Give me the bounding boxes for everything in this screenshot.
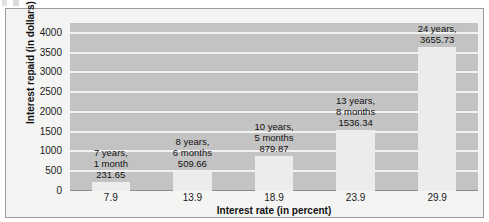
bar[interactable] — [255, 156, 293, 191]
bar-annotation-line: 5 months — [254, 132, 293, 143]
y-axis-tick-label: 500 — [45, 166, 62, 176]
bar-value-annotation: 10 years,5 months879.87 — [254, 121, 293, 154]
gridline — [70, 111, 478, 113]
y-axis-tick-label: 3500 — [40, 48, 62, 58]
bar-value-annotation: 13 years,8 months1536.34 — [336, 95, 375, 128]
x-axis-tick-label: 23.9 — [346, 193, 365, 203]
bar-value-annotation: 7 years,1 month231.65 — [94, 147, 128, 180]
bar-annotation-line: 13 years, — [336, 95, 375, 106]
x-axis-tick-label: 18.9 — [264, 193, 283, 203]
bar-value-annotation: 8 years,6 months509.66 — [173, 136, 212, 169]
gridline — [70, 91, 478, 93]
y-axis-tick-label: 4000 — [40, 28, 62, 38]
y-axis-tick-label: 0 — [56, 186, 62, 196]
bar-annotation-line: 3655.73 — [418, 34, 457, 45]
bar-annotation-line: 24 years, — [418, 23, 457, 34]
bar-annotation-line: 879.87 — [254, 143, 293, 154]
x-axis-title: Interest rate (in percent) — [70, 205, 478, 216]
y-axis-tick-label: 2500 — [40, 87, 62, 97]
y-axis-tick-label: 1000 — [40, 146, 62, 156]
bar-annotation-line: 1536.34 — [336, 117, 375, 128]
y-axis-tick-labels: 05001000150020002500300035004000 — [6, 23, 66, 191]
x-axis-tick-label: 7.9 — [104, 193, 118, 203]
y-axis-tick-label: 2000 — [40, 107, 62, 117]
bar[interactable] — [418, 47, 456, 192]
bar-annotation-line: 8 months — [336, 106, 375, 117]
gridline — [70, 52, 478, 54]
bar-annotation-line: 8 years, — [173, 136, 212, 147]
bar[interactable] — [336, 130, 374, 191]
bar-annotation-line: 231.65 — [94, 169, 128, 180]
bar-annotation-line: 10 years, — [254, 121, 293, 132]
x-axis-tick-label: 13.9 — [183, 193, 202, 203]
y-axis-tick-label: 1500 — [40, 127, 62, 137]
bar-annotation-line: 6 months — [173, 147, 212, 158]
plot-area: 7 years,1 month231.658 years,6 months509… — [70, 23, 478, 191]
bar-annotation-line: 509.66 — [173, 158, 212, 169]
y-axis-tick-label: 3000 — [40, 67, 62, 77]
bar-annotation-line: 7 years, — [94, 147, 128, 158]
gridline — [70, 71, 478, 73]
bar-value-annotation: 24 years,3655.73 — [418, 23, 457, 45]
bar[interactable] — [92, 182, 130, 191]
bar-chart-figure: Interest repaid (in dollars) 05001000150… — [5, 8, 484, 218]
bar[interactable] — [173, 171, 211, 191]
x-axis-tick-label: 29.9 — [427, 193, 446, 203]
bar-annotation-line: 1 month — [94, 158, 128, 169]
